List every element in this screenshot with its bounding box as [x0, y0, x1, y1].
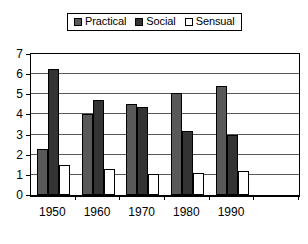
legend-label: Sensual — [196, 16, 235, 27]
bar-social-1960 — [93, 100, 104, 195]
bar-practical-1970 — [126, 104, 137, 195]
y-axis-line — [30, 53, 31, 196]
legend-entry-practical[interactable]: Practical — [74, 16, 126, 27]
legend-entry-social[interactable]: Social — [135, 16, 175, 27]
bar-sensual-1990 — [238, 171, 249, 195]
bar-practical-1950 — [37, 149, 48, 195]
x-tick — [209, 196, 210, 200]
y-tick — [26, 135, 30, 136]
y-tick — [26, 94, 30, 95]
y-tick-label: 5 — [16, 88, 23, 100]
x-tick-label: 1970 — [128, 206, 155, 218]
plot-area — [30, 53, 300, 196]
legend-label: Practical — [85, 16, 126, 27]
bar-chart: PracticalSocialSensual 01234567 19501960… — [0, 0, 308, 244]
bar-social-1970 — [137, 107, 148, 195]
bar-sensual-1950 — [59, 165, 70, 195]
bars-layer — [31, 54, 299, 195]
y-tick-label: 6 — [16, 68, 23, 80]
x-tick — [253, 196, 254, 200]
y-tick-label: 1 — [16, 169, 23, 181]
y-tick — [26, 74, 30, 75]
legend-swatch-sensual-icon — [185, 18, 193, 26]
x-tick — [119, 196, 120, 200]
y-tick — [26, 114, 30, 115]
y-axis-ticks: 01234567 — [0, 53, 30, 196]
bar-sensual-1960 — [104, 169, 115, 195]
y-tick — [26, 175, 30, 176]
bar-sensual-1970 — [148, 174, 159, 195]
legend-entry-sensual[interactable]: Sensual — [185, 16, 235, 27]
x-tick-label: 1990 — [218, 206, 245, 218]
y-tick-label: 2 — [16, 149, 23, 161]
y-tick-label: 7 — [16, 48, 23, 60]
legend-swatch-practical-icon — [74, 18, 82, 26]
bar-social-1990 — [227, 135, 238, 195]
x-tick — [75, 196, 76, 200]
bar-social-1950 — [48, 69, 59, 195]
x-tick-label: 1960 — [84, 206, 111, 218]
x-tick — [298, 196, 299, 200]
x-tick-label: 1950 — [39, 206, 66, 218]
y-tick-label: 4 — [16, 108, 23, 120]
y-tick-label: 0 — [16, 189, 23, 201]
x-tick-label: 1980 — [173, 206, 200, 218]
bar-practical-1980 — [171, 93, 182, 195]
x-axis-ticks: 19501960197019801990 — [30, 196, 300, 220]
bar-social-1980 — [182, 131, 193, 195]
bar-sensual-1980 — [193, 173, 204, 195]
y-tick — [26, 54, 30, 55]
bar-practical-1960 — [82, 114, 93, 195]
bar-practical-1990 — [216, 86, 227, 195]
y-tick — [26, 155, 30, 156]
y-tick-label: 3 — [16, 129, 23, 141]
legend-swatch-social-icon — [135, 18, 143, 26]
legend-label: Social — [146, 16, 175, 27]
x-tick — [164, 196, 165, 200]
chart-legend: PracticalSocialSensual — [67, 13, 242, 31]
